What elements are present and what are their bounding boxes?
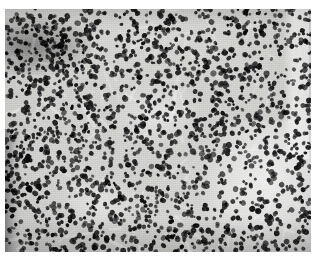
histology-micrograph bbox=[5, 9, 311, 252]
page-canvas bbox=[0, 0, 317, 259]
vignette-overlay bbox=[5, 9, 311, 252]
